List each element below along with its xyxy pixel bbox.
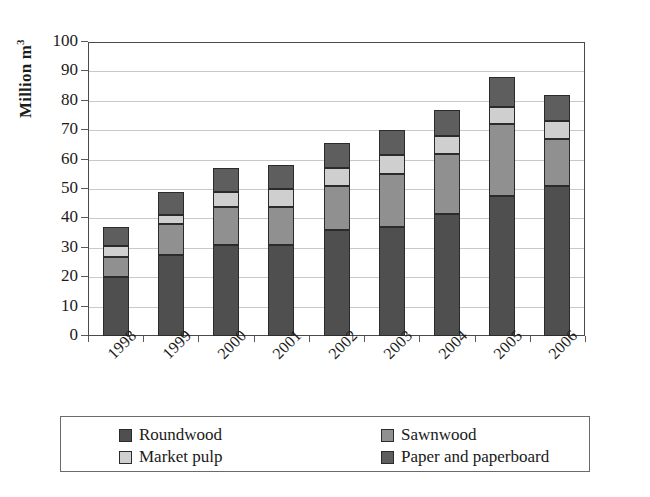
bar-segment-2000-roundwood[interactable] (213, 245, 239, 336)
bar-segment-2002-roundwood[interactable] (324, 230, 350, 336)
y-tick-label-20: 20 (30, 266, 78, 286)
x-tick-mark-3 (254, 336, 255, 342)
bar-segment-2000-market-pulp[interactable] (213, 192, 239, 207)
y-tick-mark-70 (81, 129, 88, 130)
bar-segment-1998-market-pulp[interactable] (103, 246, 129, 256)
x-tick-mark-0 (88, 336, 89, 342)
y-tick-mark-90 (81, 70, 88, 71)
chart-legend: RoundwoodSawnwoodMarket pulpPaper and pa… (60, 416, 590, 472)
y-tick-mark-40 (81, 217, 88, 218)
bar-segment-2003-market-pulp[interactable] (379, 155, 405, 174)
y-tick-label-50: 50 (30, 178, 78, 198)
bar-segment-1998-paper-and-paperboard[interactable] (103, 227, 129, 246)
bar-segment-2000-paper-and-paperboard[interactable] (213, 168, 239, 192)
bar-segment-2003-roundwood[interactable] (379, 227, 405, 336)
bar-segment-2006-paper-and-paperboard[interactable] (544, 95, 570, 121)
legend-label: Sawnwood (401, 425, 477, 445)
bar-segment-2005-market-pulp[interactable] (489, 107, 515, 125)
bar-segment-1998-roundwood[interactable] (103, 277, 129, 336)
legend-item-roundwood[interactable]: Roundwood (119, 425, 222, 445)
x-tick-mark-4 (309, 336, 310, 342)
bar-segment-2002-sawnwood[interactable] (324, 186, 350, 230)
bar-segment-1999-sawnwood[interactable] (158, 224, 184, 255)
legend-label: Paper and paperboard (401, 447, 549, 467)
legend-swatch-icon (381, 451, 394, 464)
legend-label: Roundwood (139, 425, 222, 445)
legend-label: Market pulp (139, 447, 223, 467)
y-tick-label-70: 70 (30, 119, 78, 139)
bar-segment-1998-sawnwood[interactable] (103, 257, 129, 278)
x-tick-mark-6 (419, 336, 420, 342)
bar-segment-2004-market-pulp[interactable] (434, 136, 460, 154)
bar-segment-2003-paper-and-paperboard[interactable] (379, 130, 405, 155)
bar-segment-2001-paper-and-paperboard[interactable] (268, 165, 294, 189)
legend-swatch-icon (381, 429, 394, 442)
bar-segment-2001-sawnwood[interactable] (268, 207, 294, 245)
x-tick-mark-9 (585, 336, 586, 342)
y-tick-mark-100 (81, 41, 88, 42)
legend-item-sawnwood[interactable]: Sawnwood (381, 425, 477, 445)
bar-segment-2002-paper-and-paperboard[interactable] (324, 143, 350, 168)
y-tick-mark-10 (81, 306, 88, 307)
x-tick-mark-1 (143, 336, 144, 342)
bar-segment-2006-roundwood[interactable] (544, 186, 570, 336)
legend-item-paper-and-paperboard[interactable]: Paper and paperboard (381, 447, 549, 467)
x-tick-mark-8 (530, 336, 531, 342)
chart-figure: Million m3 0102030405060708090100 199819… (0, 0, 650, 497)
legend-item-market-pulp[interactable]: Market pulp (119, 447, 223, 467)
bar-series-container (88, 42, 585, 336)
y-tick-label-0: 0 (30, 325, 78, 345)
bar-segment-2006-sawnwood[interactable] (544, 139, 570, 186)
y-tick-label-80: 80 (30, 90, 78, 110)
y-tick-mark-30 (81, 247, 88, 248)
bar-segment-2004-roundwood[interactable] (434, 214, 460, 336)
y-axis-title-superscript: 3 (14, 39, 26, 45)
bar-segment-2005-sawnwood[interactable] (489, 124, 515, 196)
y-tick-mark-60 (81, 159, 88, 160)
y-tick-mark-80 (81, 100, 88, 101)
bar-segment-2006-market-pulp[interactable] (544, 121, 570, 139)
y-tick-label-40: 40 (30, 207, 78, 227)
bar-segment-2004-sawnwood[interactable] (434, 154, 460, 214)
y-tick-label-100: 100 (30, 31, 78, 51)
bar-segment-2003-sawnwood[interactable] (379, 174, 405, 227)
bar-segment-2001-roundwood[interactable] (268, 245, 294, 336)
bar-segment-2004-paper-and-paperboard[interactable] (434, 110, 460, 136)
x-tick-mark-5 (364, 336, 365, 342)
legend-swatch-icon (119, 451, 132, 464)
y-tick-label-60: 60 (30, 149, 78, 169)
bar-segment-2005-paper-and-paperboard[interactable] (489, 77, 515, 106)
x-tick-mark-7 (475, 336, 476, 342)
y-tick-mark-0 (81, 335, 88, 336)
legend-swatch-icon (119, 429, 132, 442)
y-tick-mark-20 (81, 276, 88, 277)
y-tick-label-30: 30 (30, 237, 78, 257)
bar-segment-2005-roundwood[interactable] (489, 196, 515, 336)
bar-segment-2000-sawnwood[interactable] (213, 207, 239, 245)
y-tick-label-10: 10 (30, 296, 78, 316)
bar-segment-1999-market-pulp[interactable] (158, 215, 184, 224)
bar-segment-2001-market-pulp[interactable] (268, 189, 294, 207)
y-tick-label-90: 90 (30, 60, 78, 80)
bar-segment-1999-paper-and-paperboard[interactable] (158, 192, 184, 216)
bar-segment-1999-roundwood[interactable] (158, 255, 184, 336)
x-tick-mark-2 (198, 336, 199, 342)
y-tick-mark-50 (81, 188, 88, 189)
bar-segment-2002-market-pulp[interactable] (324, 168, 350, 186)
